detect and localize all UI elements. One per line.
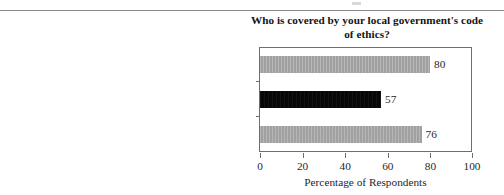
x-axis-tick-60	[388, 153, 389, 158]
bar-all-staff-members	[260, 56, 430, 73]
bar-board-and-commission-members	[260, 91, 381, 108]
y-axis-tick-2	[256, 116, 260, 117]
x-axis-title: Percentage of Respondents	[259, 176, 472, 189]
x-axis-ticklabel-80: 80	[410, 160, 450, 173]
x-axis-tick-0	[260, 153, 261, 158]
chart-title-line-1: Who is covered by your local government'…	[251, 14, 483, 26]
bar-all-elected-officials	[260, 126, 422, 143]
x-axis-tick-40	[345, 153, 346, 158]
x-axis-ticklabel-20: 20	[283, 160, 323, 173]
x-axis-tick-80	[430, 153, 431, 158]
x-axis-ticklabel-40: 40	[325, 160, 365, 173]
x-axis-tick-20	[303, 153, 304, 158]
x-axis-ticklabel-0: 0	[240, 160, 280, 173]
x-axis-tick-100	[472, 153, 473, 158]
plot-area: All Staff Members 80 Board and Commissio…	[259, 47, 472, 152]
x-axis-ticklabel-60: 60	[368, 160, 408, 173]
chart-title: Who is covered by your local government'…	[248, 14, 486, 41]
x-axis-ticklabel-100: 100	[452, 160, 492, 173]
value-label-all-staff-members: 80	[434, 58, 445, 71]
chart-title-line-2: of ethics?	[344, 28, 390, 40]
y-axis-tick-1	[256, 81, 260, 82]
value-label-all-elected-officials: 76	[426, 128, 437, 141]
bar-chart-figure: Who is covered by your local government'…	[0, 0, 504, 195]
value-label-board-and-commission-members: 57	[385, 93, 396, 106]
